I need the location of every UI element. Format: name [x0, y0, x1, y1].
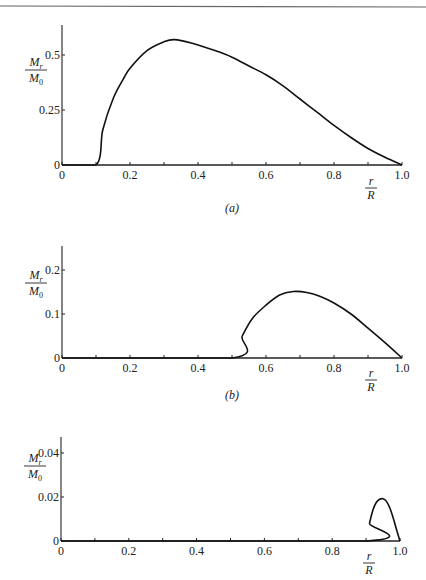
x-tick-label: 0.2	[123, 168, 138, 182]
x-tick-label: 0.2	[121, 544, 136, 558]
x-tick-label: 0.6	[259, 361, 274, 375]
top-rule	[0, 6, 426, 7]
x-tick-label: 0.4	[191, 168, 206, 182]
svg-text:M0: M0	[28, 71, 43, 87]
x-tick-label: 0.8	[327, 168, 342, 182]
y-tick-label: 0.25	[39, 103, 60, 117]
x-tick-label: 1.0	[393, 544, 408, 558]
data-curve	[61, 499, 400, 541]
x-tick-label: 0.6	[259, 168, 274, 182]
chart-panels: 00.20.40.60.81.000.250.5MrM0rR(a)00.20.4…	[24, 25, 410, 577]
panel-label: (a)	[225, 201, 239, 215]
x-tick-label: 0.8	[325, 544, 340, 558]
x-tick-label: 0.2	[123, 361, 138, 375]
data-curve	[62, 40, 402, 165]
x-tick-label: 0.4	[191, 361, 206, 375]
x-tick-label: 1.0	[395, 361, 410, 375]
x-tick-label: 0.4	[189, 544, 204, 558]
svg-text:r: r	[369, 366, 374, 380]
y-tick-label: 0	[54, 351, 60, 365]
svg-text:R: R	[366, 188, 375, 202]
data-curve	[62, 291, 402, 358]
chart-panel-3: 00.20.40.60.81.000.020.04MrM0rR	[24, 437, 408, 577]
chart-panel-2: 00.20.40.60.81.000.10.2MrM0rR(b)	[25, 246, 410, 402]
svg-text:Mr: Mr	[28, 55, 43, 71]
svg-text:R: R	[366, 380, 375, 394]
y-tick-label: 0.1	[45, 307, 60, 321]
svg-text:Mr: Mr	[28, 268, 43, 284]
svg-text:r: r	[367, 549, 372, 563]
x-tick-label: 0.8	[327, 361, 342, 375]
x-axis-label: rR	[363, 549, 375, 577]
x-axis-label: rR	[365, 174, 377, 202]
svg-text:r: r	[369, 174, 374, 188]
y-tick-label: 0.02	[38, 490, 59, 504]
y-tick-label: 0	[54, 158, 60, 172]
panel-label: (b)	[225, 388, 239, 402]
x-axis-label: rR	[365, 366, 377, 394]
y-tick-label: 0.5	[45, 48, 60, 62]
chart-panel-1: 00.20.40.60.81.000.250.5MrM0rR(a)	[25, 25, 410, 215]
y-tick-label: 0	[53, 534, 59, 548]
x-tick-label: 1.0	[395, 168, 410, 182]
y-axis-label: MrM0	[25, 55, 47, 87]
y-axis-label: MrM0	[25, 268, 47, 300]
svg-text:M0: M0	[28, 284, 43, 300]
svg-text:M0: M0	[27, 467, 42, 483]
y-tick-label: 0.2	[45, 263, 60, 277]
x-tick-label: 0.6	[257, 544, 272, 558]
figure-canvas: 00.20.40.60.81.000.250.5MrM0rR(a)00.20.4…	[0, 0, 426, 580]
svg-text:R: R	[364, 563, 373, 577]
